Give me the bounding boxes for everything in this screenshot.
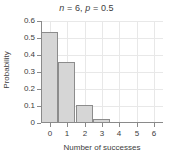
bar	[76, 105, 93, 122]
y-tick-label: 0.2	[7, 84, 35, 93]
bar	[41, 32, 58, 122]
y-tick-label: 0.1	[7, 101, 35, 110]
chart-title-n-value: = 6,	[64, 3, 85, 13]
gridline-vertical	[154, 21, 155, 123]
x-tick-label: 5	[130, 129, 144, 138]
chart-title: n = 6, p = 0.5	[0, 3, 173, 13]
x-tick-label: 1	[60, 129, 74, 138]
y-axis-line	[41, 21, 42, 123]
bar	[58, 62, 75, 122]
gridline-vertical	[137, 21, 138, 123]
gridline-vertical	[119, 21, 120, 123]
y-tick-label: 0	[7, 118, 35, 127]
x-tick-mark	[67, 123, 68, 127]
x-axis-label: Number of successes	[41, 143, 163, 152]
x-tick-mark	[119, 123, 120, 127]
x-tick-label: 3	[95, 129, 109, 138]
x-tick-label: 4	[112, 129, 126, 138]
y-tick-label: 0.3	[7, 67, 35, 76]
y-tick-label: 0.5	[7, 33, 35, 42]
chart-title-p-value: = 0.5	[90, 3, 113, 13]
x-tick-mark	[137, 123, 138, 127]
plot-area	[41, 21, 163, 123]
x-tick-mark	[154, 123, 155, 127]
chart-figure: n = 6, p = 0.5 Probability 00.10.20.30.4…	[0, 0, 173, 160]
x-tick-mark	[50, 123, 51, 127]
x-tick-label: 0	[43, 129, 57, 138]
y-tick-label: 0.6	[7, 16, 35, 25]
x-tick-label: 6	[147, 129, 161, 138]
gridline-vertical	[102, 21, 103, 123]
x-tick-mark	[102, 123, 103, 127]
y-tick-mark	[37, 123, 41, 124]
x-tick-mark	[85, 123, 86, 127]
x-tick-label: 2	[78, 129, 92, 138]
y-tick-label: 0.4	[7, 50, 35, 59]
